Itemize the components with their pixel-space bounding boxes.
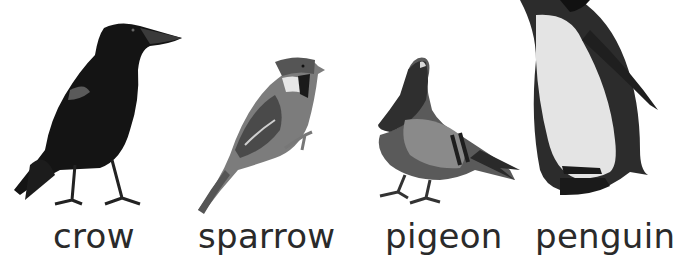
sparrow-label: sparrow xyxy=(198,216,335,256)
sparrow-eye xyxy=(302,65,305,68)
penguin-body xyxy=(520,0,658,190)
crow-body xyxy=(14,23,182,200)
crow-label: crow xyxy=(53,216,135,256)
pigeon-label: pigeon xyxy=(385,216,503,256)
crow-eye xyxy=(132,29,135,32)
pigeon-body xyxy=(378,58,520,181)
penguin-image xyxy=(500,0,664,210)
sparrow-image xyxy=(190,40,340,220)
penguin-label: penguin xyxy=(535,216,675,256)
crow-image xyxy=(0,0,200,215)
